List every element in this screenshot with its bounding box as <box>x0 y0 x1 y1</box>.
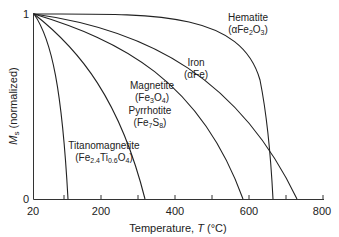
x-tick-20: 20 <box>27 205 39 217</box>
label-magnetite-formula: (Fe3O4) <box>135 92 169 104</box>
x-tick-600: 600 <box>240 205 258 217</box>
label-magnetite: Magnetite <box>130 80 174 91</box>
x-tick-400: 400 <box>166 205 184 217</box>
curve-labels: Hematite (αFe2O3) Iron (αFe) Magnetite (… <box>68 12 268 164</box>
label-pyrrhotite-formula: (Fe7S8) <box>134 117 167 129</box>
x-tick-800: 800 <box>313 205 331 217</box>
label-pyrrhotite: Pyrrhotite <box>129 105 172 116</box>
label-hematite: Hematite <box>228 12 268 23</box>
label-iron: Iron <box>187 57 204 68</box>
y-tick-1: 1 <box>23 8 29 20</box>
y-axis-label: Ms (normalized) <box>7 67 21 144</box>
y-tick-0: 0 <box>23 193 29 205</box>
label-titanomagnetite-formula: (Fe2.4Ti0.6O4) <box>75 152 132 164</box>
axes <box>34 13 325 200</box>
label-titanomagnetite: Titanomagnetite <box>68 140 140 151</box>
x-tick-200: 200 <box>92 205 110 217</box>
curie-temperature-chart: 1 0 20 200 400 600 800 Temperature, T (°… <box>0 0 339 237</box>
label-hematite-formula: (αFe2O3) <box>228 24 268 36</box>
x-axis-label: Temperature, T (°C) <box>129 222 226 234</box>
label-iron-formula: (αFe) <box>184 69 208 80</box>
curve-titanomagnetite <box>34 14 68 199</box>
